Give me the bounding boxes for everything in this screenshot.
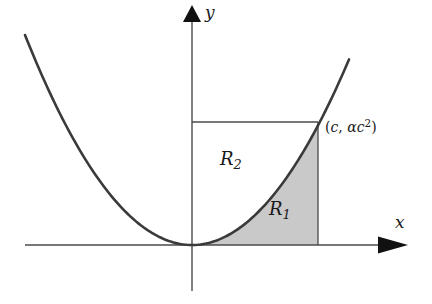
region-r1-letter: R — [269, 198, 283, 219]
region-r2-letter: R — [220, 148, 234, 169]
y-axis-label: y — [205, 4, 215, 21]
region-r1-shape — [192, 125, 318, 245]
region-r2-subscript: 2 — [234, 157, 242, 172]
region-r1-label: R1 — [269, 200, 291, 222]
alpha-symbol: α — [347, 119, 356, 135]
point-coordinate-label: (c, αc2) — [325, 118, 377, 134]
coord-separator: , — [338, 119, 347, 135]
figure-canvas — [0, 0, 432, 304]
close-paren: ) — [371, 119, 376, 135]
x-axis-label: x — [395, 214, 405, 231]
region-r2-label: R2 — [220, 150, 242, 172]
point-c-symbol: c — [357, 119, 365, 135]
parabola-region-figure: y x R2 R1 (c, αc2) — [0, 0, 432, 304]
region-r1-subscript: 1 — [283, 207, 291, 222]
y-axis — [183, 5, 201, 291]
x-axis — [25, 237, 408, 254]
